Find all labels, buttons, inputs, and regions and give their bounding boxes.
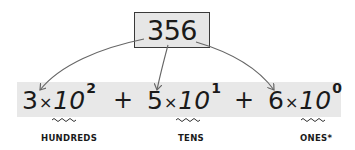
term-digit: 6	[268, 88, 284, 117]
term-base: 10	[178, 88, 210, 117]
times-sign: ×	[285, 95, 298, 117]
term-digit: 3	[22, 88, 38, 117]
number-value: 356	[147, 17, 197, 44]
squiggle-underline-icon	[52, 117, 76, 123]
term-exponent: 2	[86, 81, 96, 95]
plus-operator: +	[113, 88, 133, 112]
label-ones: ONES*	[300, 133, 332, 143]
number-box: 356	[134, 12, 210, 48]
times-sign: ×	[164, 95, 177, 117]
term-ones: 6 × 10 0	[268, 82, 342, 117]
term-exponent: 1	[211, 81, 221, 95]
term-exponent: 0	[332, 81, 342, 95]
squiggle-underline-icon	[301, 117, 325, 123]
term-tens: 5 × 10 1	[147, 82, 221, 117]
term-base: 10	[53, 88, 85, 117]
term-hundreds: 3 × 10 2	[22, 82, 96, 117]
squiggle-underline-icon	[176, 117, 200, 123]
term-digit: 5	[147, 88, 163, 117]
label-tens: TENS	[178, 133, 204, 143]
plus-operator: +	[234, 88, 254, 112]
label-hundreds: HUNDREDS	[41, 133, 97, 143]
term-base: 10	[299, 88, 331, 117]
place-value-diagram: 356 3 × 10 2 + 5 × 10 1 + 6 × 10 0	[0, 0, 355, 150]
times-sign: ×	[39, 95, 52, 117]
